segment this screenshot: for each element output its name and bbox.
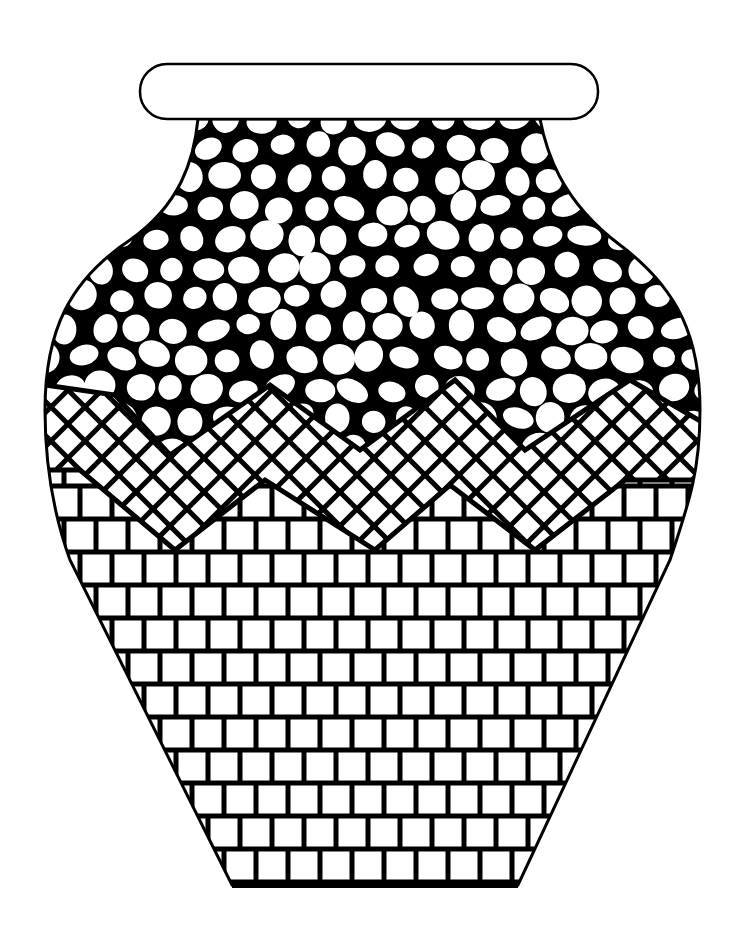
pebble <box>104 163 135 188</box>
pebble <box>15 313 49 341</box>
pebble <box>631 196 658 220</box>
pebble <box>699 194 726 225</box>
pebble <box>660 195 694 224</box>
pebble <box>666 133 694 164</box>
pebble <box>87 132 120 167</box>
pebble <box>589 132 629 168</box>
pebble <box>109 100 134 129</box>
lattice-line <box>0 0 733 1</box>
pebble <box>48 188 89 225</box>
pebble <box>14 198 42 225</box>
pebble <box>680 225 718 255</box>
pebble <box>30 222 60 255</box>
pebble <box>79 189 119 225</box>
pebble <box>644 227 675 253</box>
pebble <box>639 159 675 194</box>
pebble <box>550 133 589 167</box>
vase-illustration <box>0 0 733 936</box>
pebble <box>16 135 51 162</box>
pebble <box>644 99 681 136</box>
pebble <box>607 158 642 194</box>
lattice-line <box>0 0 733 50</box>
pebble <box>72 107 102 130</box>
pebble <box>567 160 607 198</box>
pebble <box>26 286 64 316</box>
pebble <box>697 428 730 462</box>
pebble <box>631 137 661 162</box>
vase-rim <box>140 64 598 119</box>
vase-body <box>0 0 733 936</box>
pebble <box>393 168 419 192</box>
pebble <box>51 126 86 163</box>
pebble <box>15 254 42 281</box>
pebble <box>663 255 698 286</box>
pebble <box>116 127 151 165</box>
pebble <box>71 219 102 253</box>
pebble <box>679 279 718 318</box>
pebble <box>30 102 59 130</box>
pebble <box>681 102 711 133</box>
lattice-line <box>0 0 733 35</box>
pebble <box>700 312 731 344</box>
pebble <box>25 161 66 199</box>
pebble <box>679 164 713 194</box>
lattice-line <box>0 900 733 936</box>
lattice-line <box>0 0 733 16</box>
pebble <box>140 165 168 196</box>
pebble <box>606 103 639 131</box>
pebble <box>691 251 730 285</box>
pebble <box>68 157 102 192</box>
pebble <box>694 132 728 162</box>
lattice-line <box>0 0 733 69</box>
